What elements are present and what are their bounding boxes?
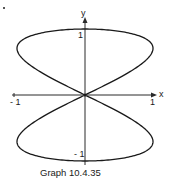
y-tick-pos-1: 1 xyxy=(78,31,83,40)
y-tick-neg-1: - 1 xyxy=(74,150,85,159)
x-tick-neg-1: - 1 xyxy=(10,98,21,107)
x-axis-label: x xyxy=(159,90,164,99)
x-tick-pos-1: 1 xyxy=(150,98,155,107)
origin-point xyxy=(83,93,86,96)
y-axis-label: y xyxy=(81,9,86,18)
figure-caption: Graph 10.4.35 xyxy=(40,167,101,178)
